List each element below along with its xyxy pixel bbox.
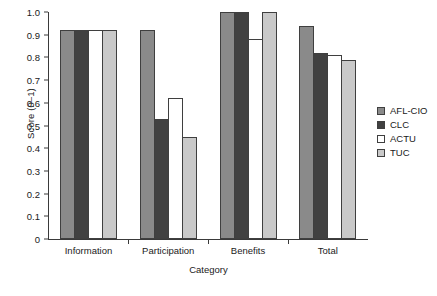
legend-label: ACTU	[390, 134, 416, 144]
legend-item[interactable]: ACTU	[377, 132, 427, 146]
legend-item[interactable]: AFL-CIO	[377, 104, 427, 118]
legend-swatch-icon	[377, 107, 385, 115]
bar[interactable]	[327, 55, 342, 239]
y-axis-tick-label: 0.1	[0, 211, 40, 222]
bar-group	[299, 12, 356, 239]
x-axis-tick-mark	[208, 240, 209, 244]
legend-swatch-icon	[377, 121, 385, 129]
bar-chart: Score (0–1) 00.10.20.30.40.50.60.70.80.9…	[0, 0, 437, 296]
y-axis-tick-label: 0.2	[0, 188, 40, 199]
bar[interactable]	[262, 12, 277, 239]
bar[interactable]	[248, 39, 263, 239]
bar-group-bars	[220, 12, 277, 239]
legend: AFL-CIOCLCACTUTUC	[377, 104, 427, 160]
x-axis-category-labels: InformationParticipationBenefitsTotal	[49, 245, 368, 261]
y-axis-tick-label: 0.9	[0, 29, 40, 40]
bar[interactable]	[154, 119, 169, 239]
bar[interactable]	[341, 60, 356, 239]
y-axis-tick-label: 0.4	[0, 143, 40, 154]
bar[interactable]	[182, 137, 197, 239]
bar[interactable]	[74, 30, 89, 239]
y-axis-tick-label: 0.5	[0, 120, 40, 131]
y-axis-ticks: 00.10.20.30.40.50.60.70.80.91.0	[0, 0, 48, 296]
bar[interactable]	[234, 12, 249, 239]
legend-item[interactable]: TUC	[377, 146, 427, 160]
x-axis-category-label: Participation	[142, 245, 194, 256]
bar[interactable]	[60, 30, 75, 239]
x-axis-title: Category	[49, 264, 368, 275]
bar-group-bars	[60, 12, 117, 239]
bar-group	[220, 12, 277, 239]
bar[interactable]	[88, 30, 103, 239]
y-axis-tick-label: 0.8	[0, 52, 40, 63]
plot-area	[49, 12, 368, 239]
x-axis-tick-mark	[128, 240, 129, 244]
bar[interactable]	[313, 53, 328, 239]
x-axis-category-label: Total	[318, 245, 338, 256]
y-axis-tick-label: 1.0	[0, 7, 40, 18]
bar-group-bars	[299, 12, 356, 239]
y-axis-tick-label: 0.6	[0, 97, 40, 108]
bar[interactable]	[102, 30, 117, 239]
bar[interactable]	[299, 26, 314, 239]
bar[interactable]	[140, 30, 155, 239]
bar[interactable]	[168, 98, 183, 239]
legend-label: TUC	[390, 148, 410, 158]
bar-group	[140, 12, 197, 239]
legend-label: CLC	[390, 120, 409, 130]
y-axis-tick-label: 0	[0, 234, 40, 245]
x-axis-tick-mark	[288, 240, 289, 244]
legend-swatch-icon	[377, 149, 385, 157]
legend-label: AFL-CIO	[390, 106, 427, 116]
bar[interactable]	[220, 12, 235, 239]
bar-group	[60, 12, 117, 239]
bar-group-bars	[140, 12, 197, 239]
x-axis-category-label: Benefits	[231, 245, 265, 256]
x-axis-category-label: Information	[65, 245, 113, 256]
legend-item[interactable]: CLC	[377, 118, 427, 132]
y-axis-tick-label: 0.3	[0, 165, 40, 176]
legend-swatch-icon	[377, 135, 385, 143]
y-axis-tick-label: 0.7	[0, 75, 40, 86]
